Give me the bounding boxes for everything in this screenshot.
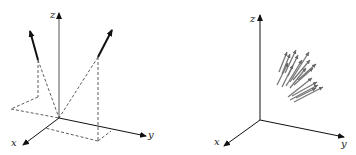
- left-diagram: z y x: [0, 0, 178, 155]
- axes: [224, 15, 344, 146]
- z-axis-label: z: [50, 10, 55, 20]
- y-axis: [59, 118, 146, 136]
- projection-lines: [11, 57, 111, 141]
- vector-right: [98, 30, 112, 57]
- z-axis-label: z: [250, 14, 255, 24]
- vector-left: [30, 31, 38, 60]
- x-axis-label: x: [214, 137, 220, 147]
- right-diagram-canvas: [178, 0, 356, 155]
- y-axis: [260, 120, 344, 137]
- vector-cluster: [277, 50, 323, 102]
- x-axis: [224, 120, 260, 146]
- x-axis: [23, 118, 59, 145]
- y-axis-label: y: [341, 139, 347, 149]
- y-axis-label: y: [148, 130, 154, 140]
- axes: [23, 13, 146, 145]
- x-axis-label: x: [11, 138, 17, 148]
- right-diagram: z y x: [178, 0, 356, 155]
